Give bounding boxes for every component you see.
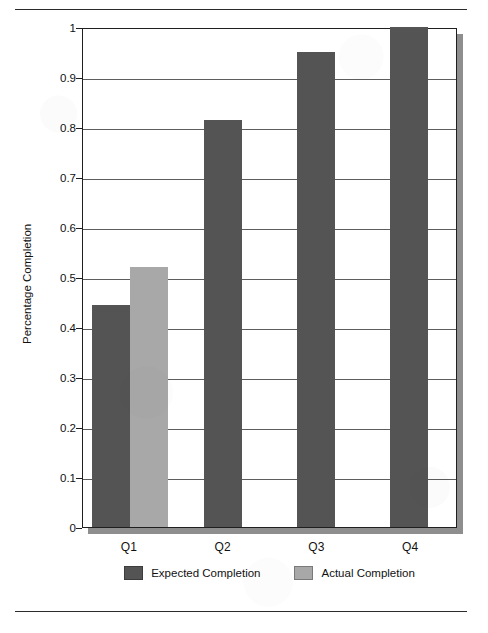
y-axis-title: Percentage Completion <box>21 224 33 344</box>
y-axis-tick-mark <box>76 378 82 379</box>
bar[interactable] <box>204 120 242 528</box>
y-axis-tick-mark <box>76 228 82 229</box>
bar[interactable] <box>390 27 428 527</box>
legend-item[interactable]: Actual Completion <box>294 566 414 580</box>
y-axis-tick-mark <box>76 478 82 479</box>
x-axis-tick-label: Q1 <box>82 540 176 554</box>
legend-swatch <box>294 566 313 580</box>
legend-item[interactable]: Expected Completion <box>124 566 260 580</box>
y-axis-tick-label: 0.7 <box>24 172 76 184</box>
bars-layer <box>83 29 456 527</box>
y-axis-tick-label: 0.9 <box>24 72 76 84</box>
bar-group <box>363 29 456 527</box>
y-axis-tick-label: 0.1 <box>24 472 76 484</box>
legend-label: Expected Completion <box>151 567 260 579</box>
legend-label: Actual Completion <box>321 567 414 579</box>
bar[interactable] <box>130 267 168 527</box>
bar-group <box>270 29 363 527</box>
bottom-horizontal-rule <box>15 611 467 612</box>
bar-group <box>176 29 269 527</box>
x-axis-tick-label: Q2 <box>176 540 270 554</box>
y-axis-tick-mark <box>76 28 82 29</box>
y-axis-tick-mark <box>76 78 82 79</box>
y-axis-tick-mark <box>76 528 82 529</box>
y-axis-tick-mark <box>76 128 82 129</box>
y-axis-tick-label: 1 <box>24 22 76 34</box>
y-axis-tick-label: 0.3 <box>24 372 76 384</box>
bar-chart-figure: 10.90.80.70.60.50.40.30.20.10 Percentage… <box>0 0 488 633</box>
y-axis-tick-mark <box>76 178 82 179</box>
x-axis-tick-labels: Q1Q2Q3Q4 <box>82 540 457 554</box>
x-axis-tick-label: Q3 <box>270 540 364 554</box>
y-axis-tick-mark <box>76 278 82 279</box>
legend-swatch <box>124 566 143 580</box>
y-axis-tick-label: 0.2 <box>24 422 76 434</box>
y-axis-tick-label: 0 <box>24 522 76 534</box>
x-axis-tick-label: Q4 <box>363 540 457 554</box>
y-axis-tick-mark <box>76 328 82 329</box>
chart-legend: Expected CompletionActual Completion <box>82 566 457 580</box>
bar[interactable] <box>297 52 335 527</box>
bar[interactable] <box>92 305 130 528</box>
y-axis-tick-label: 0.8 <box>24 122 76 134</box>
bar-group <box>83 29 176 527</box>
plot-area <box>82 28 457 528</box>
y-axis-tick-mark <box>76 428 82 429</box>
